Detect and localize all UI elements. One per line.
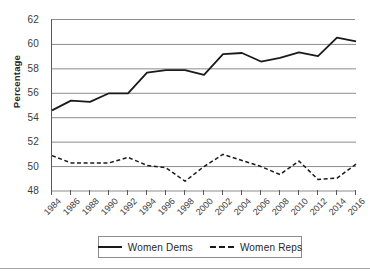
x-tick-label-1988: 1988: [80, 196, 101, 217]
plot-area: [51, 19, 355, 190]
chart-page: Percentage 6260585654525048 198419861988…: [0, 0, 370, 278]
x-tick-label-2012: 2012: [308, 196, 329, 217]
y-axis-tick-labels: 6260585654525048: [0, 19, 45, 190]
legend-label-women-reps: Women Reps: [240, 242, 302, 253]
legend-swatch-dashed-icon: [210, 246, 234, 248]
y-tick-label-54: 54: [27, 111, 39, 122]
series-lines: [52, 20, 356, 191]
x-tick-label-1998: 1998: [175, 196, 196, 217]
legend-swatch-solid-icon: [98, 246, 122, 248]
x-tick-label-1994: 1994: [137, 196, 158, 217]
x-tick-label-2016: 2016: [346, 196, 367, 217]
legend-label-women-dems: Women Dems: [128, 242, 193, 253]
y-tick-label-52: 52: [27, 136, 39, 147]
y-tick-label-48: 48: [27, 185, 39, 196]
page-bottom-rule: [0, 268, 370, 269]
x-tick-label-2014: 2014: [327, 196, 348, 217]
y-tick-label-58: 58: [27, 62, 39, 73]
x-tick-label-1984: 1984: [42, 196, 63, 217]
x-tick-label-1992: 1992: [118, 196, 139, 217]
x-tick-label-2010: 2010: [289, 196, 310, 217]
x-tick-label-2000: 2000: [194, 196, 215, 217]
series-line-women-dems: [52, 38, 356, 111]
y-tick-label-56: 56: [27, 87, 39, 98]
x-tick-label-1986: 1986: [61, 196, 82, 217]
x-tick-label-2002: 2002: [213, 196, 234, 217]
x-tick-label-1990: 1990: [99, 196, 120, 217]
legend-entry-women-reps: Women Reps: [210, 242, 302, 253]
series-line-women-reps: [52, 154, 356, 181]
x-tick-label-2004: 2004: [232, 196, 253, 217]
y-tick-label-60: 60: [27, 38, 39, 49]
x-tick-label-2006: 2006: [251, 196, 272, 217]
chart-legend: Women Dems Women Reps: [98, 236, 302, 258]
legend-entry-women-dems: Women Dems: [98, 242, 193, 253]
x-axis-tick-labels: 1984198619881990199219941996199820002002…: [51, 196, 355, 236]
x-tick-label-2008: 2008: [270, 196, 291, 217]
y-tick-label-62: 62: [27, 14, 39, 25]
y-tick-label-50: 50: [27, 160, 39, 171]
x-tick-label-1996: 1996: [156, 196, 177, 217]
